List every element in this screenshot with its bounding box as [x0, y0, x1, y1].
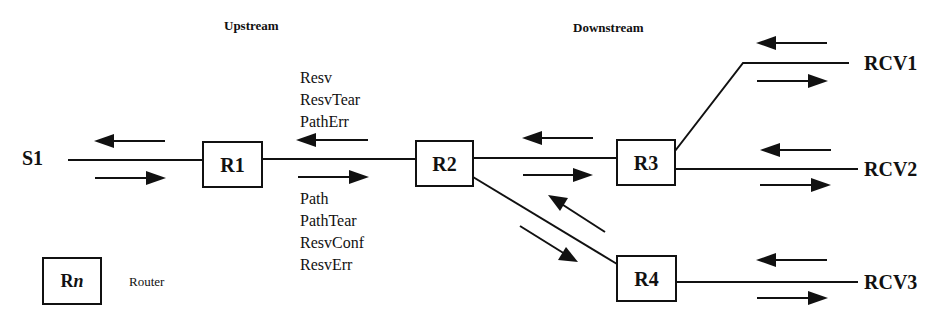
- legend-router-label: Router: [129, 274, 165, 289]
- receiver-rcv2-label: RCV2: [864, 158, 917, 180]
- router-r3-label: R3: [634, 152, 658, 174]
- arrow-left-icon: [296, 133, 368, 147]
- legend: Rn Router: [43, 258, 165, 304]
- arrow-left-icon: [756, 36, 827, 50]
- source-s1-label: S1: [22, 147, 43, 169]
- link-r3-rcv1: [675, 63, 849, 151]
- arrow-right-icon: [757, 74, 828, 88]
- arrow-right-icon: [757, 291, 828, 305]
- message-resvtear: ResvTear: [300, 91, 361, 108]
- router-r1: R1: [203, 142, 262, 187]
- arrow-diagonal-down-right-icon: [520, 226, 578, 262]
- upstream-messages: Resv ResvTear PathErr: [300, 69, 361, 130]
- upstream-header: Upstream: [224, 18, 279, 33]
- arrow-right-icon: [523, 168, 593, 182]
- receiver-rcv1-label: RCV1: [864, 52, 917, 74]
- arrow-right-icon: [95, 171, 166, 185]
- arrow-left-icon: [522, 131, 593, 145]
- message-path: Path: [300, 190, 328, 207]
- arrow-left-icon: [756, 253, 827, 267]
- router-r2-label: R2: [432, 153, 456, 175]
- arrow-right-icon: [298, 170, 369, 184]
- router-r2: R2: [416, 141, 473, 186]
- arrow-right-icon: [760, 178, 831, 192]
- downstream-messages: Path PathTear ResvConf ResvErr: [300, 190, 365, 273]
- router-r4: R4: [617, 256, 676, 301]
- arrow-left-icon: [760, 143, 831, 157]
- message-pathtear: PathTear: [300, 212, 357, 229]
- router-r1-label: R1: [220, 154, 244, 176]
- legend-router-symbol: Rn: [60, 271, 83, 291]
- arrow-left-icon: [94, 134, 165, 148]
- message-resv: Resv: [300, 69, 332, 86]
- receiver-rcv3-label: RCV3: [864, 271, 917, 293]
- router-r3: R3: [617, 140, 675, 185]
- router-r4-label: R4: [634, 268, 658, 290]
- link-r2-r4: [473, 177, 617, 264]
- rsvp-diagram: Upstream Downstream S1 R1 R2 R3 R4 RCV1 …: [0, 0, 950, 321]
- message-patherr: PathErr: [300, 113, 350, 130]
- downstream-header: Downstream: [573, 20, 644, 35]
- message-resvconf: ResvConf: [300, 234, 365, 251]
- message-resverr: ResvErr: [300, 256, 353, 273]
